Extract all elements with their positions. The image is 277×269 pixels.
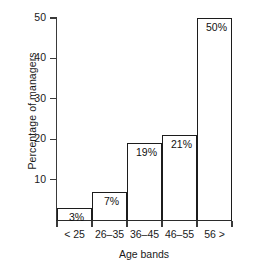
bar-chart: Percentage of managers 1020304050 3%7%19… — [0, 0, 277, 269]
x-tick-label: 46–55 — [162, 228, 197, 240]
x-tick-label: 56 > — [197, 228, 232, 240]
y-tick-20 — [50, 139, 57, 140]
bar-value-label: 7% — [97, 195, 126, 207]
bar-value-label: 21% — [167, 138, 196, 150]
y-axis-line — [56, 18, 57, 220]
bar-value-label: 3% — [62, 211, 91, 223]
x-tick — [126, 221, 127, 227]
y-tick-10 — [50, 179, 57, 180]
y-tick-label: 30 — [24, 92, 46, 104]
x-tick — [56, 221, 57, 227]
y-tick-40 — [50, 58, 57, 59]
x-tick-label: < 25 — [57, 228, 92, 240]
x-tick — [91, 221, 92, 227]
bar-value-label: 19% — [132, 146, 161, 158]
y-tick-50 — [50, 17, 57, 18]
y-tick-30 — [50, 98, 57, 99]
x-axis-title: Age bands — [56, 248, 232, 260]
bar — [197, 18, 232, 220]
x-tick — [231, 221, 232, 227]
x-tick-label: 26–35 — [92, 228, 127, 240]
x-tick — [196, 221, 197, 227]
y-tick-label: 50 — [24, 11, 46, 23]
x-tick-label: 36–45 — [127, 228, 162, 240]
y-tick-label: 20 — [24, 132, 46, 144]
y-tick-label: 40 — [24, 51, 46, 63]
bar-value-label: 50% — [202, 21, 231, 33]
y-tick-label: 10 — [24, 173, 46, 185]
x-tick — [161, 221, 162, 227]
